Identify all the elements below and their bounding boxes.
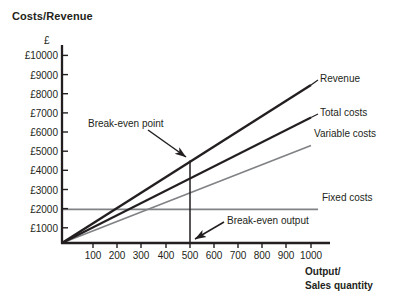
- x-axis-caption-line2: Sales quantity: [305, 279, 373, 292]
- y-tick-3000: £3000: [6, 184, 58, 195]
- x-tick-100: 100: [85, 250, 102, 261]
- y-tick-8000: £8000: [6, 88, 58, 99]
- series-label-revenue: Revenue: [320, 73, 360, 84]
- x-tick-300: 300: [133, 250, 150, 261]
- break-even-output-arrow: [195, 222, 224, 239]
- series-label-fixed-costs: Fixed costs: [322, 192, 373, 203]
- y-tick-4000: £4000: [6, 165, 58, 176]
- y-tick-5000: £5000: [6, 146, 58, 157]
- x-tick-900: 900: [278, 250, 295, 261]
- annotation-break-even-point: Break-even point: [88, 118, 164, 129]
- x-tick-400: 400: [158, 250, 175, 261]
- x-tick-1000: 1000: [300, 250, 322, 261]
- x-tick-500: 500: [182, 250, 199, 261]
- total-costs-leader-line: [311, 114, 318, 118]
- x-tick-200: 200: [109, 250, 126, 261]
- y-tick-1000: £1000: [6, 222, 58, 233]
- series-label-variable-costs: Variable costs: [314, 128, 376, 139]
- y-tick-10000: £10000: [6, 50, 58, 61]
- y-tick-7000: £7000: [6, 107, 58, 118]
- y-tick-2000: £2000: [6, 203, 58, 214]
- x-axis-caption-line1: Output/: [305, 265, 341, 278]
- x-tick-600: 600: [206, 250, 223, 261]
- series-label-total-costs: Total costs: [320, 107, 367, 118]
- annotation-break-even-output: Break-even output: [227, 215, 309, 226]
- break-even-point-arrow: [148, 130, 186, 157]
- y-tick-6000: £6000: [6, 127, 58, 138]
- y-axis: [62, 45, 68, 244]
- x-tick-800: 800: [254, 250, 271, 261]
- revenue-leader-line: [311, 80, 318, 85]
- x-axis: [61, 243, 330, 248]
- y-tick-9000: £9000: [6, 69, 58, 80]
- x-tick-700: 700: [230, 250, 247, 261]
- variable-costs-line: [62, 146, 311, 244]
- chart-canvas: Costs/Revenue £: [0, 0, 396, 306]
